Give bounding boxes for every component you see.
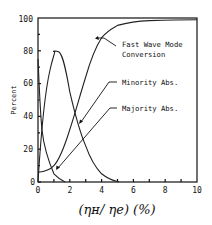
label-majority: Majority Abs. — [122, 104, 178, 113]
annotation-minority — [79, 82, 117, 124]
svg-text:4: 4 — [99, 186, 104, 195]
series-minority-abs — [38, 51, 119, 182]
svg-text:8: 8 — [163, 186, 168, 195]
svg-text:20: 20 — [23, 145, 33, 154]
x-tick-labels: 0 2 4 6 8 10 — [36, 186, 202, 195]
label-fast-wave-line1: Fast Wave Mode — [122, 40, 183, 49]
svg-text:40: 40 — [23, 112, 33, 121]
svg-text:0: 0 — [30, 178, 35, 187]
y-tick-labels: 0 20 40 60 80 100 — [19, 15, 36, 187]
svg-text:80: 80 — [23, 47, 33, 56]
svg-text:100: 100 — [19, 15, 34, 24]
label-minority: Minority Abs. — [122, 78, 178, 87]
label-fast-wave-line2: Conversion — [122, 50, 165, 59]
svg-text:6: 6 — [131, 186, 136, 195]
x-axis-label: (ηʜ/ ηe) (%) — [78, 202, 155, 217]
svg-text:0: 0 — [36, 186, 41, 195]
annotation-majority — [56, 108, 117, 170]
svg-text:60: 60 — [23, 79, 33, 88]
y-axis-label: Percent — [10, 85, 18, 115]
chart: 0 20 40 60 80 100 0 2 4 6 8 10 Percent (… — [0, 0, 212, 225]
svg-text:10: 10 — [192, 186, 202, 195]
svg-text:2: 2 — [67, 186, 72, 195]
series-majority-abs — [38, 59, 65, 182]
